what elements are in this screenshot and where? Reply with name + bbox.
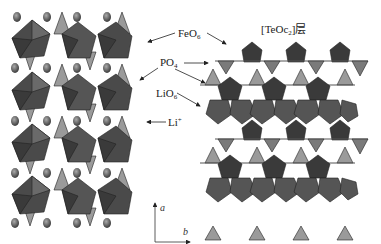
- label-feo6: FeO6: [178, 28, 200, 41]
- label-feo6-sub: 6: [197, 33, 201, 41]
- label-li-ion: Li+: [168, 117, 182, 128]
- crystal-structure-diagram: FeO6 PO4 LiO6 Li+ [TeOc2]层 a b: [0, 0, 381, 244]
- label-lio6-sub: 6: [174, 93, 178, 101]
- label-teoc2-layer: [TeOc2]层: [261, 24, 307, 37]
- right-structure: [200, 42, 368, 240]
- label-lio6-base: LiO: [156, 87, 174, 99]
- label-layer-suffix: ]层: [292, 23, 307, 35]
- label-li-base: Li: [168, 116, 178, 128]
- label-layer-prefix: [TeOc: [261, 23, 288, 35]
- label-po4: PO4: [160, 57, 178, 70]
- axis-label-b: b: [183, 226, 188, 237]
- label-feo6-base: FeO: [178, 27, 197, 39]
- left-structure: [11, 12, 132, 228]
- label-po4-base: PO: [160, 56, 174, 68]
- label-li-sup: +: [178, 116, 182, 124]
- axis-label-a: a: [160, 202, 165, 213]
- label-po4-sub: 4: [174, 62, 178, 70]
- label-lio6: LiO6: [156, 88, 177, 101]
